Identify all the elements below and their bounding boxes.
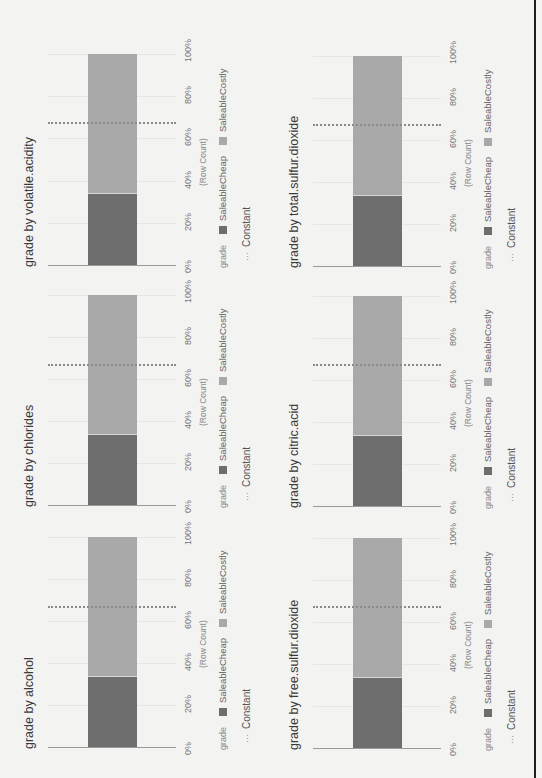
legend: grade SaleableCheap SaleableCostly xyxy=(482,552,493,751)
x-tick-label: 60% xyxy=(183,611,193,629)
legend-title: grade xyxy=(483,728,493,751)
legend-label-saleable-costly[interactable]: SaleableCostly xyxy=(482,552,493,615)
chart-title: grade by alcohol xyxy=(22,657,36,749)
chart-panel: grade by free.sulfur.dioxide0%20%40%60%8… xyxy=(265,0,530,778)
x-tick-label: 0% xyxy=(183,742,193,755)
chart-title: grade by free.sulfur.dioxide xyxy=(287,600,301,750)
x-tick-label: 20% xyxy=(448,696,458,714)
legend-swatch-saleable-costly xyxy=(484,620,492,628)
legend: grade SaleableCheap SaleableCostly xyxy=(217,551,228,750)
x-tick-label: 100% xyxy=(183,522,193,545)
dotted-line-icon: ··· xyxy=(242,734,252,743)
x-tick-label: 80% xyxy=(183,569,193,587)
segment-separator xyxy=(88,676,137,677)
dotted-line-icon: ··· xyxy=(507,735,517,744)
legend-label-saleable-costly[interactable]: SaleableCostly xyxy=(217,551,228,614)
x-tick-label: 60% xyxy=(448,612,458,630)
x-axis-title: (Row Count) xyxy=(198,620,208,668)
legend-swatch-saleable-costly xyxy=(219,619,227,627)
x-axis-title: (Row Count) xyxy=(463,621,473,669)
legend-constant: ··· Constant xyxy=(241,689,252,743)
legend-title: grade xyxy=(218,727,228,750)
legend-label-saleable-cheap[interactable]: SaleableCheap xyxy=(482,639,493,704)
x-tick-label: 40% xyxy=(183,653,193,671)
bar-segment-saleable-cheap[interactable] xyxy=(353,678,402,748)
constant-reference-line xyxy=(48,606,176,608)
constant-reference-line xyxy=(313,606,441,608)
bar-segment-saleable-cheap[interactable] xyxy=(88,677,137,747)
legend-swatch-saleable-cheap xyxy=(484,709,492,717)
legend-label-saleable-cheap[interactable]: SaleableCheap xyxy=(217,638,228,703)
x-tick-label: 80% xyxy=(448,570,458,588)
category-axis-line xyxy=(48,747,176,748)
x-tick-label: 100% xyxy=(448,523,458,546)
chart-panel: grade by alcohol0%20%40%60%80%100%(Row C… xyxy=(0,0,265,778)
x-tick-label: 20% xyxy=(183,695,193,713)
x-tick-label: 0% xyxy=(448,743,458,756)
category-axis-line xyxy=(313,748,441,749)
legend-label-constant[interactable]: Constant xyxy=(506,690,517,730)
legend-label-constant[interactable]: Constant xyxy=(241,689,252,729)
page-border-line xyxy=(534,0,536,778)
legend-constant: ··· Constant xyxy=(506,690,517,744)
segment-separator xyxy=(353,677,402,678)
legend-swatch-saleable-cheap xyxy=(219,708,227,716)
x-tick-label: 40% xyxy=(448,654,458,672)
